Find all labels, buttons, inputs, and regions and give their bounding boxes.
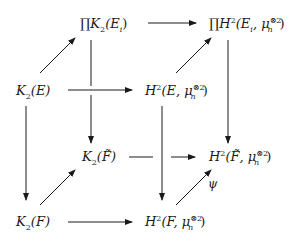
product-symbol: ∏ [209, 16, 219, 31]
node-H2-E: H2(E, μ⊗2n) [145, 83, 208, 99]
node-arg: (F) [31, 214, 50, 229]
node-main: H [145, 83, 156, 98]
node-K2-Ftilde: K2(F̃) [82, 149, 116, 165]
node-close: ) [203, 83, 208, 98]
node-musub: n [267, 25, 272, 34]
node-close: ) [122, 16, 127, 31]
node-main: H [209, 149, 220, 164]
node-K2-E: K2(E) [16, 83, 50, 99]
commutative-diagram: ∏K2(Ei) ∏H2(Ei, μ⊗2n) K2(E) H2(E, μ⊗2n) … [0, 0, 305, 243]
node-K2-F: K2(F) [16, 214, 50, 230]
node-close: ) [280, 16, 285, 31]
node-prod-H2-Ei: ∏H2(Ei, μ⊗2n) [209, 16, 285, 32]
arrow-K2E-to-prodK2Ei [40, 38, 75, 73]
product-symbol: ∏ [80, 16, 90, 31]
node-close: ) [200, 214, 205, 229]
node-arg: (F̃) [97, 149, 116, 164]
node-main: K [16, 214, 26, 229]
node-musub: n [254, 158, 259, 167]
node-close: ) [266, 149, 271, 164]
node-arg: (E [236, 16, 251, 31]
node-arg: (F̃ [225, 149, 239, 164]
node-arg: (E) [31, 83, 51, 98]
node-main: K [90, 16, 100, 31]
node-arg: (E [161, 83, 176, 98]
node-main: H [145, 214, 156, 229]
node-musub: n [191, 92, 196, 101]
arrow-K2F-to-K2Ftilde [40, 170, 75, 205]
node-musub: n [188, 223, 193, 232]
arrow-H2E-to-prodH2Ei [176, 38, 211, 73]
arrows-layer [0, 0, 305, 243]
node-H2-Ftilde: H2(F̃, μ⊗2n) [209, 149, 271, 165]
node-main: H [219, 16, 230, 31]
node-arg: (E [105, 16, 120, 31]
edge-label-psi: ψ [208, 177, 217, 191]
node-main: K [16, 83, 26, 98]
node-arg: (F [161, 214, 173, 229]
node-main: K [82, 149, 92, 164]
node-H2-F: H2(F, μ⊗2n) [145, 214, 205, 230]
arrow-H2F-to-H2Ftilde [176, 170, 211, 205]
node-prod-K2-Ei: ∏K2(Ei) [80, 16, 127, 32]
